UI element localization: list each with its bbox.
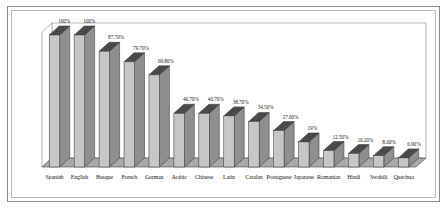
bar-value-label: 34.50% <box>258 104 274 110</box>
bar-value-label: 100% <box>83 18 95 24</box>
category-label: German <box>142 174 167 180</box>
bar-value-label: 100% <box>58 18 70 24</box>
category-label: Quechua <box>391 174 416 180</box>
category-label: Latin <box>217 174 242 180</box>
category-label: Chinese <box>192 174 217 180</box>
chart-inner-frame: 100%Spanish100%English87.70%Basque79.70%… <box>11 10 436 198</box>
bar-column <box>74 26 94 167</box>
category-label: English <box>67 174 92 180</box>
bar-column <box>199 104 219 167</box>
category-label: Hindi <box>341 174 366 180</box>
bar-value-label: 87.70% <box>108 34 124 40</box>
bar-chart-svg <box>24 21 428 193</box>
category-label: Portuguese <box>266 174 291 180</box>
bar-value-label: 27.60% <box>283 114 299 120</box>
category-label: Japanese <box>291 174 316 180</box>
bar-value-label: 69.80% <box>158 58 174 64</box>
bar-column <box>274 122 294 167</box>
category-label: French <box>117 174 142 180</box>
bar-column <box>249 112 269 167</box>
bar-value-label: 6.90% <box>407 141 420 147</box>
bar-column <box>149 66 169 167</box>
category-label: Catalan <box>241 174 266 180</box>
bar-column <box>174 104 194 167</box>
bar-column <box>49 26 69 167</box>
bar-column <box>99 42 119 167</box>
bar-value-label: 40.70% <box>208 96 224 102</box>
bar-value-label: 19% <box>308 125 317 131</box>
bar-column <box>224 107 244 167</box>
bar-value-label: 12.50% <box>332 134 348 140</box>
bar-value-label: 38.70% <box>233 99 249 105</box>
chart-figure: 100%Spanish100%English87.70%Basque79.70%… <box>0 0 447 208</box>
category-label: Romanian <box>316 174 341 180</box>
category-label: Spanish <box>42 174 67 180</box>
bar-value-label: 79.70% <box>133 45 149 51</box>
chart-outer-frame: 100%Spanish100%English87.70%Basque79.70%… <box>7 6 440 202</box>
bar-value-label: 10.20% <box>357 137 373 143</box>
bar-value-label: 8.60% <box>382 139 395 145</box>
category-label: Basque <box>92 174 117 180</box>
bar-column <box>124 53 144 167</box>
bar-value-label: 40.70% <box>183 96 199 102</box>
chart-plot-area: 100%Spanish100%English87.70%Basque79.70%… <box>24 21 428 193</box>
category-label: Swahili <box>366 174 391 180</box>
category-label: Arabic <box>167 174 192 180</box>
